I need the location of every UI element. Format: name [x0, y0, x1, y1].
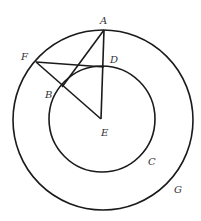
label-b: B: [44, 89, 52, 100]
label-g: G: [174, 184, 182, 195]
label-a: A: [99, 15, 107, 26]
segment-f-d: [36, 62, 104, 67]
geometry-diagram: A D F B E C G: [0, 0, 201, 221]
label-f: F: [20, 51, 29, 62]
label-c: C: [148, 156, 156, 167]
segment-a-e: [101, 30, 104, 119]
segment-a-b: [62, 30, 104, 87]
label-e: E: [100, 127, 109, 138]
label-d: D: [109, 54, 118, 65]
